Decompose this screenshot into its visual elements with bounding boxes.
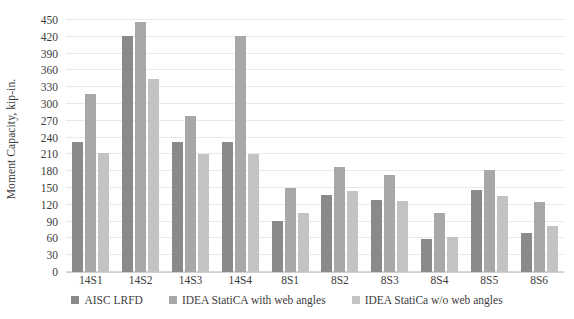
- bar: [298, 213, 309, 272]
- legend-swatch-icon: [352, 296, 360, 304]
- bar: [185, 116, 196, 272]
- y-tick-label: 450: [41, 14, 58, 26]
- bar: [421, 239, 432, 272]
- x-tick-label: 14S1: [79, 274, 103, 286]
- y-tick-label: 360: [41, 64, 58, 76]
- y-tick-label: 390: [41, 48, 58, 60]
- y-tick-label: 150: [41, 182, 58, 194]
- bar: [447, 237, 458, 272]
- x-tick-label: 8S4: [431, 274, 449, 286]
- bar: [321, 195, 332, 272]
- bar: [235, 36, 246, 272]
- bar: [198, 154, 209, 272]
- bar: [172, 142, 183, 272]
- x-tick-label: 8S2: [331, 274, 349, 286]
- x-tick-label: 8S5: [480, 274, 498, 286]
- bar: [72, 142, 83, 272]
- y-tick-label: 240: [41, 132, 58, 144]
- legend-label: IDEA StatiCA with web angles: [182, 294, 326, 306]
- y-tick-label: 90: [47, 216, 59, 228]
- x-tick-label: 8S1: [281, 274, 299, 286]
- y-tick-label: 210: [41, 148, 58, 160]
- bar-group: [514, 20, 564, 272]
- bar: [85, 94, 96, 272]
- bar-group: [116, 20, 166, 272]
- bar: [521, 233, 532, 272]
- bar: [248, 154, 259, 272]
- bar-group: [265, 20, 315, 272]
- plot-area: [66, 20, 564, 272]
- legend-item[interactable]: IDEA StatiCA with web angles: [169, 294, 326, 306]
- y-tick-label: 420: [41, 31, 58, 43]
- y-tick-label: 60: [47, 232, 59, 244]
- y-tick-label: 300: [41, 98, 58, 110]
- bar: [471, 190, 482, 272]
- bar-group: [365, 20, 415, 272]
- bars-layer: [66, 20, 564, 272]
- bar-chart: Moment Capacity, kip-in. 030609012015018…: [0, 0, 574, 319]
- x-axis-tick-labels: 14S114S214S314S48S18S28S38S48S58S6: [66, 274, 564, 290]
- bar-group: [464, 20, 514, 272]
- bar: [371, 200, 382, 272]
- bar-group: [66, 20, 116, 272]
- bar: [347, 191, 358, 272]
- bar: [285, 188, 296, 272]
- x-tick-label: 14S2: [129, 274, 153, 286]
- legend-swatch-icon: [169, 296, 177, 304]
- bar-group: [166, 20, 216, 272]
- y-axis-title: Moment Capacity, kip-in.: [0, 0, 22, 278]
- y-tick-label: 30: [47, 249, 59, 261]
- y-tick-label: 180: [41, 165, 58, 177]
- bar: [397, 201, 408, 272]
- bar-group: [215, 20, 265, 272]
- bar: [222, 142, 233, 272]
- bar: [272, 221, 283, 272]
- legend-swatch-icon: [71, 296, 79, 304]
- y-axis-tick-labels: 0306090120150180210240270300330360390420…: [22, 20, 62, 272]
- legend-item[interactable]: IDEA StatiCa w/o web angles: [352, 294, 503, 306]
- bar-group: [315, 20, 365, 272]
- y-tick-label: 270: [41, 115, 58, 127]
- bar: [434, 213, 445, 272]
- y-tick-label: 330: [41, 81, 58, 93]
- x-tick-label: 8S3: [381, 274, 399, 286]
- bar: [98, 153, 109, 272]
- bar-group: [415, 20, 465, 272]
- bar: [148, 79, 159, 272]
- x-tick-label: 8S6: [530, 274, 548, 286]
- chart-legend: AISC LRFDIDEA StatiCA with web anglesIDE…: [0, 294, 574, 306]
- bar: [135, 22, 146, 272]
- legend-label: IDEA StatiCa w/o web angles: [365, 294, 503, 306]
- bar: [384, 175, 395, 272]
- bar: [547, 226, 558, 272]
- bar: [534, 202, 545, 272]
- bar: [497, 196, 508, 272]
- bar: [334, 167, 345, 272]
- x-tick-label: 14S3: [179, 274, 203, 286]
- legend-label: AISC LRFD: [84, 294, 142, 306]
- y-tick-label: 120: [41, 199, 58, 211]
- bar: [484, 170, 495, 272]
- x-tick-label: 14S4: [228, 274, 252, 286]
- legend-item[interactable]: AISC LRFD: [71, 294, 142, 306]
- y-tick-label: 0: [52, 266, 58, 278]
- x-axis-line: [66, 272, 564, 273]
- y-axis-title-text: Moment Capacity, kip-in.: [5, 79, 17, 199]
- bar: [122, 36, 133, 272]
